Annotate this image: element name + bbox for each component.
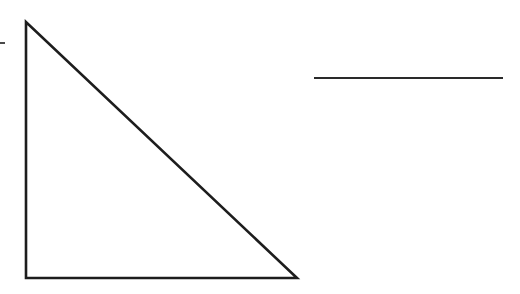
- figure-canvas: Right triangle and horizontal line segme…: [0, 0, 520, 294]
- geometry-figure: Right triangle and horizontal line segme…: [0, 0, 520, 294]
- figure-background: [0, 0, 520, 294]
